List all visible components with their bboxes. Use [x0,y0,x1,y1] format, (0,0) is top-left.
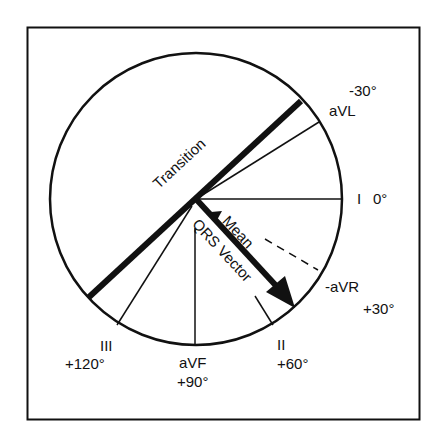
lead-ii-axis [255,296,273,325]
avf-label: aVF [179,355,207,370]
avf-degree-label: +90° [177,374,208,389]
lead-i-degree-label: 0° [373,191,387,206]
avl-label: aVL [329,103,356,118]
lead-ii-degree-label: +60° [277,356,308,371]
lead-iii-label: III [100,338,113,353]
neg-avr-axis [265,239,318,270]
neg-avr-label: -aVR [325,279,359,294]
lead-i-label: I [357,191,361,206]
avl-degree-label: -30° [349,83,377,98]
lead-ii-label: II [277,337,285,352]
avl-axis [196,122,319,199]
lead-iii-axis [117,206,192,325]
lead-iii-degree-label: +120° [65,356,105,371]
neg-avr-degree-label: +30° [363,301,394,316]
